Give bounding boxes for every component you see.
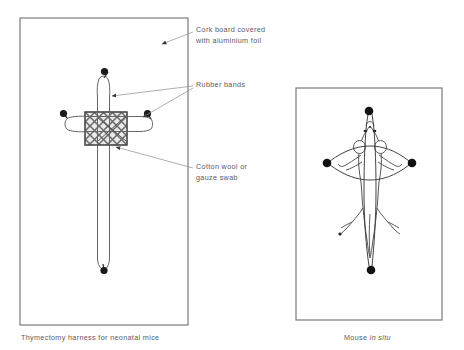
panel-border-right bbox=[296, 88, 442, 320]
leader-line-rubber-band-horizontal bbox=[143, 88, 193, 117]
mouse-hindlimb-left bbox=[340, 208, 363, 234]
panel-border-left bbox=[20, 18, 188, 325]
leader-line-cotton-wool bbox=[116, 147, 193, 168]
caption-right-panel: Mouse in situ bbox=[344, 333, 391, 342]
annotation-cork-board-line1: Cork board covered bbox=[196, 25, 265, 34]
caption-right-prefix: Mouse bbox=[344, 333, 367, 342]
mouse-hindpaw-right bbox=[388, 222, 399, 228]
caption-right-italic: in situ bbox=[370, 333, 391, 342]
annotation-cotton-wool-line2: gauze swab bbox=[196, 173, 247, 184]
annotation-rubber-bands-line1: Rubber bands bbox=[196, 80, 245, 89]
mouse-pin-right bbox=[408, 159, 417, 168]
mouse-pin-head bbox=[365, 107, 374, 116]
pin-bottom bbox=[100, 264, 107, 274]
annotation-cotton-wool: Cotton wool or gauze swab bbox=[196, 162, 247, 183]
mouse-pin-tail bbox=[367, 266, 376, 275]
caption-left-panel: Thymectomy harness for neonatal mice bbox=[21, 333, 159, 342]
annotation-cork-board-line2: with aluminium foil bbox=[196, 36, 265, 47]
annotation-rubber-bands: Rubber bands bbox=[196, 80, 245, 91]
mouse-hindpaw-left bbox=[341, 222, 352, 228]
annotation-cork-board: Cork board covered with aluminium foil bbox=[196, 25, 265, 46]
mouse-horizontal-band-bottom bbox=[330, 165, 409, 180]
thymectomy-harness-drawing bbox=[60, 68, 153, 274]
mouse-nose bbox=[369, 126, 371, 128]
mouse-hindpaw-left-tip bbox=[338, 232, 341, 235]
mouse-hindlimb-right bbox=[377, 208, 400, 234]
pin-left bbox=[60, 110, 67, 118]
figure-root: Cork board covered with aluminium foil R… bbox=[0, 0, 464, 350]
annotation-leader-lines bbox=[112, 32, 193, 168]
annotation-cotton-wool-line1: Cotton wool or bbox=[196, 162, 247, 171]
mouse-horizontal-band-top bbox=[330, 146, 409, 161]
vertical-rubber-band bbox=[97, 76, 110, 271]
mouse-tail bbox=[369, 214, 370, 256]
leader-line-rubber-band-vertical bbox=[112, 86, 193, 96]
mouse-in-situ-drawing bbox=[323, 107, 417, 275]
mouse-vertical-band-left bbox=[364, 114, 369, 266]
mouse-pin-left bbox=[323, 159, 332, 168]
